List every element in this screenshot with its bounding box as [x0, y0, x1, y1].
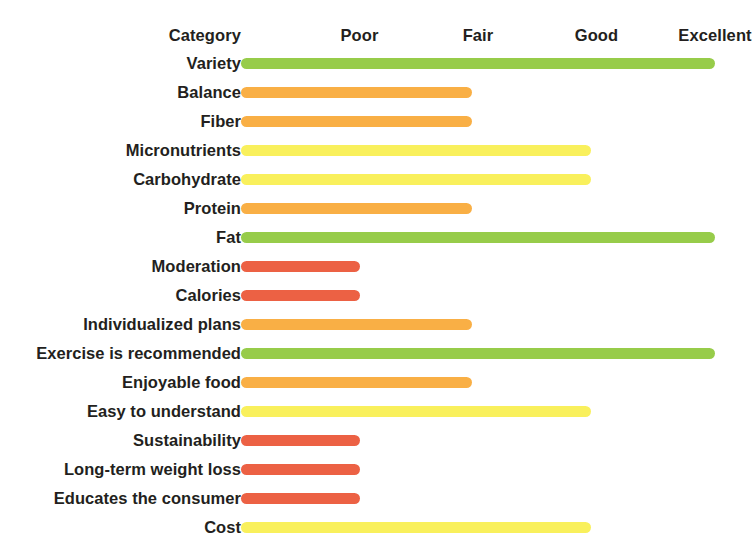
category-label-easy-to-understand: Easy to understand — [0, 402, 241, 421]
rating-bar — [241, 145, 591, 156]
category-label-fiber: Fiber — [0, 112, 241, 131]
category-label-micronutrients: Micronutrients — [0, 141, 241, 160]
axis-tick-label-fair: Fair — [463, 26, 494, 45]
category-label-cost: Cost — [0, 518, 241, 537]
category-label-protein: Protein — [0, 199, 241, 218]
chart-row: Cost — [0, 516, 736, 545]
category-label-calories: Calories — [0, 286, 241, 305]
rating-bar — [241, 261, 360, 272]
category-label-balance: Balance — [0, 83, 241, 102]
rating-bar — [241, 464, 360, 475]
category-column-header: Category — [169, 26, 241, 45]
chart-row: Sustainability — [0, 429, 736, 458]
category-label-carbohydrate: Carbohydrate — [0, 170, 241, 189]
chart-row: Enjoyable food — [0, 371, 736, 400]
category-label-fat: Fat — [0, 228, 241, 247]
category-label-educates-the-consumer: Educates the consumer — [0, 489, 241, 508]
rating-bar — [241, 435, 360, 446]
category-label-sustainability: Sustainability — [0, 431, 241, 450]
axis-tick-label-poor: Poor — [341, 26, 379, 45]
rating-bar — [241, 522, 591, 533]
rating-bar — [241, 348, 715, 359]
category-label-variety: Variety — [0, 54, 241, 73]
rating-bar — [241, 319, 472, 330]
chart-row: Micronutrients — [0, 139, 736, 168]
chart-row: Protein — [0, 197, 736, 226]
rating-bar — [241, 406, 591, 417]
chart-row: Fiber — [0, 110, 736, 139]
chart-row: Long-term weight loss — [0, 458, 736, 487]
chart-row: Educates the consumer — [0, 487, 736, 516]
rating-bar — [241, 174, 591, 185]
category-label-enjoyable-food: Enjoyable food — [0, 373, 241, 392]
chart-rows: VarietyBalanceFiberMicronutrientsCarbohy… — [0, 52, 736, 545]
rating-bar — [241, 203, 472, 214]
axis-tick-label-good: Good — [575, 26, 618, 45]
rating-bar — [241, 87, 472, 98]
category-label-exercise-is-recommended: Exercise is recommended — [0, 344, 241, 363]
category-label-long-term-weight-loss: Long-term weight loss — [0, 460, 241, 479]
rating-bar — [241, 116, 472, 127]
rating-bar — [241, 493, 360, 504]
axis-header-row: Category PoorFairGoodExcellent — [0, 26, 736, 48]
rating-bar — [241, 377, 472, 388]
chart-row: Calories — [0, 284, 736, 313]
chart-row: Fat — [0, 226, 736, 255]
axis-tick-label-excellent: Excellent — [678, 26, 751, 45]
chart-row: Balance — [0, 81, 736, 110]
chart-row: Moderation — [0, 255, 736, 284]
chart-row: Variety — [0, 52, 736, 81]
rating-bar — [241, 290, 360, 301]
chart-row: Individualized plans — [0, 313, 736, 342]
chart-row: Easy to understand — [0, 400, 736, 429]
category-label-individualized-plans: Individualized plans — [0, 315, 241, 334]
chart-row: Exercise is recommended — [0, 342, 736, 371]
chart-row: Carbohydrate — [0, 168, 736, 197]
category-label-moderation: Moderation — [0, 257, 241, 276]
rating-bar — [241, 232, 715, 243]
rating-bar — [241, 58, 715, 69]
